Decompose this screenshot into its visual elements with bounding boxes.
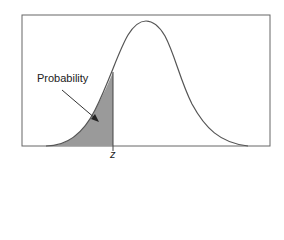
z-label: z xyxy=(110,148,116,160)
probability-label: Probability xyxy=(37,72,88,84)
